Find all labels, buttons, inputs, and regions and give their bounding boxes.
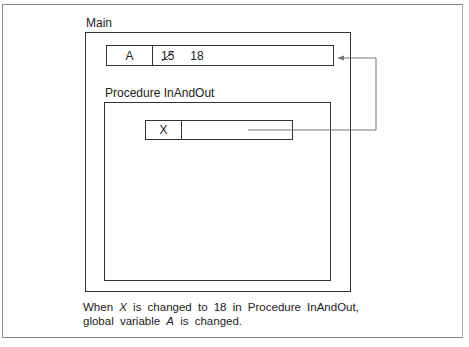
- caption-text: is changed.: [174, 315, 242, 327]
- caption-text: global variable: [83, 315, 166, 327]
- caption-var-a: A: [166, 315, 174, 327]
- caption-text: is changed to 18 in Procedure InAndOut,: [127, 301, 359, 313]
- arrow-left-icon: [337, 56, 344, 61]
- caption-var-x: X: [119, 301, 127, 313]
- caption-text: When: [83, 301, 119, 313]
- figure-caption: When X is changed to 18 in Procedure InA…: [83, 300, 363, 328]
- reference-connector: [0, 0, 469, 347]
